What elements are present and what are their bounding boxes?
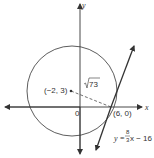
origin-label: 0 [75,109,80,118]
radius-radicand: 73 [89,80,98,89]
tangent-line-lower [96,107,111,150]
center-point [70,90,73,93]
tangent-equation: y = 8 3 x − 16 [113,129,153,143]
center-label: (−2, 3) [44,86,68,95]
equation-rhs: x − 16 [130,134,153,143]
tangent-point-label: (6, 0) [113,109,132,118]
equation-lhs: y = [113,134,125,143]
tangent-circle-diagram: y x 0 (−2, 3) 73 (6, 0) y = 8 3 x − 16 [0,0,154,158]
radius-dashed-line [71,91,111,107]
x-axis-label: x [144,103,149,112]
diagram-canvas: y x 0 (−2, 3) 73 (6, 0) y = 8 3 x − 16 [0,0,154,158]
radius-label: 73 [84,78,100,89]
y-axis-label: y [81,1,86,10]
